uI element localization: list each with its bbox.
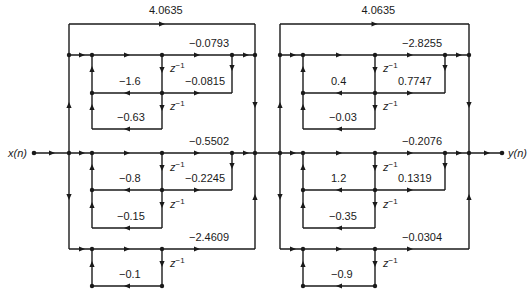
delay-label: z−1 (169, 61, 185, 74)
b1-gain-label: −0.5502 (189, 135, 229, 147)
delay-label: z−1 (169, 99, 185, 112)
direct-gain-label: 4.0635 (362, 4, 396, 16)
b1-gain-label: −0.0304 (402, 231, 442, 243)
a1-gain-label: 0.4 (331, 75, 346, 87)
delay-label: z−1 (382, 160, 398, 173)
b1-gain-label: −2.4609 (189, 231, 229, 243)
b1-gain-label: −0.2076 (402, 135, 442, 147)
delay-label: z−1 (382, 61, 398, 74)
a1-gain-label: −0.8 (119, 172, 141, 184)
delay-label: z−1 (382, 256, 398, 269)
b2-gain-label: −0.0815 (185, 75, 225, 87)
b2-gain-label: 0.1319 (398, 172, 432, 184)
b1-gain-label: −0.0793 (189, 37, 229, 49)
delay-label: z−1 (169, 197, 185, 210)
output-label: y(n) (507, 147, 527, 159)
a2-gain-label: −0.35 (329, 210, 357, 222)
a1-gain-label: −0.1 (119, 268, 141, 280)
stage-2: 4.0635−2.8255z−10.40.7747z−1−0.03−0.2076… (277, 4, 471, 289)
a1-gain-label: −0.9 (331, 268, 353, 280)
a2-gain-label: −0.03 (329, 111, 357, 123)
stage-1: 4.0635−0.0793z−1−1.6−0.0815z−1−0.63−0.55… (66, 4, 257, 289)
b1-gain-label: −2.8255 (402, 37, 442, 49)
a2-gain-label: −0.15 (117, 210, 145, 222)
a1-gain-label: 1.2 (331, 172, 346, 184)
input-label: x(n) (7, 147, 27, 159)
direct-gain-label: 4.0635 (149, 4, 183, 16)
delay-label: z−1 (169, 160, 185, 173)
a1-gain-label: −1.6 (119, 75, 141, 87)
delay-label: z−1 (169, 256, 185, 269)
b2-gain-label: −0.2245 (185, 172, 225, 184)
delay-label: z−1 (382, 99, 398, 112)
b2-gain-label: 0.7747 (398, 75, 432, 87)
input-line (32, 150, 502, 155)
delay-label: z−1 (382, 197, 398, 210)
a2-gain-label: −0.63 (117, 111, 145, 123)
signal-flow-diagram: 4.0635−0.0793z−1−1.6−0.0815z−1−0.63−0.55… (0, 0, 532, 300)
